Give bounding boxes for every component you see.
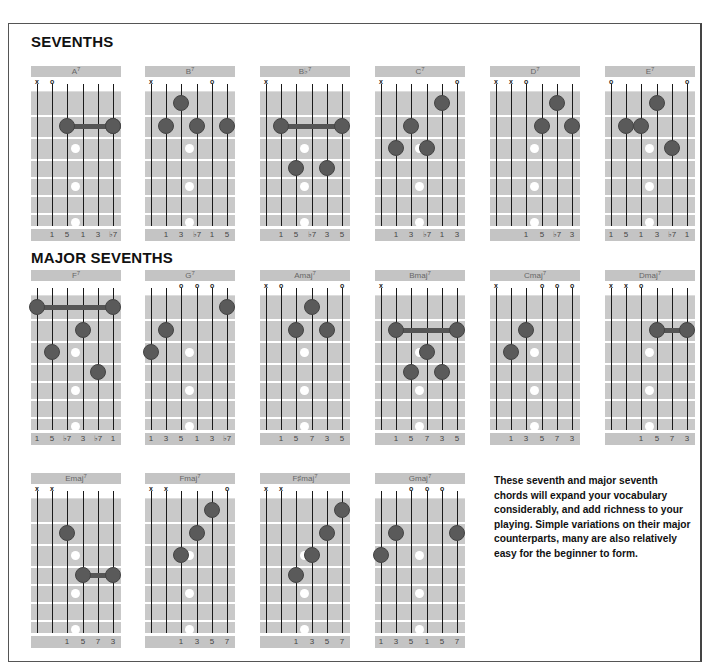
guitar-string — [37, 491, 38, 633]
interval-label: 5 — [335, 229, 349, 241]
finger-position-dot — [173, 547, 189, 563]
finger-position-dot — [633, 118, 649, 134]
interval-label: 3 — [91, 229, 105, 241]
chord-name: Emaj7 — [31, 473, 121, 484]
interval-label: 5 — [174, 433, 188, 445]
fretboard — [605, 288, 695, 430]
fret-line — [31, 159, 121, 161]
fret-line — [260, 159, 350, 161]
fret-line — [490, 319, 580, 321]
nut — [605, 288, 695, 296]
fretboard — [375, 288, 465, 430]
nut — [145, 288, 235, 296]
guitar-string — [442, 491, 443, 633]
chord-diagram: Bmaj7x15735 — [375, 270, 465, 446]
fret-line — [31, 399, 121, 401]
fret-line — [31, 381, 121, 383]
fret-line — [145, 115, 235, 117]
interval-label: 3 — [320, 433, 334, 445]
fretboard — [145, 84, 235, 226]
interval-label: ♭7 — [91, 433, 105, 445]
finger-position-dot — [105, 299, 121, 315]
fret-line — [260, 417, 350, 419]
fret-line — [145, 544, 235, 546]
nut — [490, 288, 580, 296]
nut — [31, 288, 121, 296]
finger-position-dot — [388, 525, 404, 541]
fret-line — [31, 620, 121, 622]
fret-line — [605, 319, 695, 321]
guitar-string — [113, 84, 114, 226]
finger-position-dot — [649, 95, 665, 111]
fret-line — [375, 341, 465, 343]
finger-position-dot — [434, 95, 450, 111]
chord-name: Amaj7 — [260, 270, 350, 281]
finger-position-dot — [44, 344, 60, 360]
interval-label: 1 — [60, 636, 74, 648]
finger-position-dot — [434, 364, 450, 380]
fret-line — [145, 602, 235, 604]
fretboard — [260, 84, 350, 226]
fret-inlay-dot — [71, 551, 80, 560]
finger-position-dot — [664, 140, 680, 156]
interval-label: 3 — [435, 433, 449, 445]
interval-label: ♭7 — [665, 229, 679, 241]
fret-line — [31, 544, 121, 546]
nut — [375, 84, 465, 92]
fret-inlay-dot — [185, 218, 194, 227]
interval-labels: 13513♭7 — [145, 433, 235, 445]
guitar-string — [327, 84, 328, 226]
chord-diagram: E7oo1513♭71 — [605, 66, 695, 242]
guitar-string — [687, 84, 688, 226]
nut — [375, 491, 465, 499]
chord-name: Cmaj7 — [490, 270, 580, 281]
interval-labels: 1357 — [145, 636, 235, 648]
fret-line — [260, 566, 350, 568]
interval-label: ♭7 — [190, 229, 204, 241]
nut — [375, 288, 465, 296]
chord-diagram: B7xo13♭715 — [145, 66, 235, 242]
guitar-string — [342, 84, 343, 226]
guitar-string — [457, 491, 458, 633]
guitar-string — [166, 84, 167, 226]
fret-inlay-dot — [71, 386, 80, 395]
interval-label: 5 — [435, 636, 449, 648]
finger-position-dot — [288, 160, 304, 176]
guitar-string — [511, 84, 512, 226]
interval-label: 5 — [60, 229, 74, 241]
fret-inlay-dot — [415, 386, 424, 395]
fret-line — [605, 213, 695, 215]
guitar-string — [212, 288, 213, 430]
fret-inlay-dot — [300, 348, 309, 357]
fretboard — [375, 491, 465, 633]
fret-inlay-dot — [530, 144, 539, 153]
fret-inlay-dot — [185, 144, 194, 153]
fret-line — [490, 195, 580, 197]
fretboard — [375, 84, 465, 226]
guitar-string — [641, 84, 642, 226]
fret-inlay-dot — [645, 422, 654, 431]
guitar-string — [626, 84, 627, 226]
interval-labels: 1513♭71 — [605, 229, 695, 241]
fret-line — [31, 602, 121, 604]
interval-label: 7 — [220, 636, 234, 648]
guitar-string — [442, 288, 443, 430]
finger-position-dot — [158, 118, 174, 134]
fret-inlay-dot — [645, 182, 654, 191]
fret-line — [145, 566, 235, 568]
fretboard — [490, 84, 580, 226]
interval-label: ♭7 — [220, 433, 234, 445]
chord-name: Bmaj7 — [375, 270, 465, 281]
fretboard — [145, 491, 235, 633]
guitar-string — [312, 84, 313, 226]
fret-line — [31, 522, 121, 524]
interval-labels: 135157 — [375, 636, 465, 648]
fret-line — [145, 522, 235, 524]
finger-position-dot — [75, 322, 91, 338]
fret-inlay-dot — [300, 182, 309, 191]
chord-diagram: B♭7x15♭735 — [260, 66, 350, 242]
fret-line — [375, 399, 465, 401]
finger-position-dot — [518, 322, 534, 338]
guitar-string — [67, 491, 68, 633]
fret-line — [31, 363, 121, 365]
